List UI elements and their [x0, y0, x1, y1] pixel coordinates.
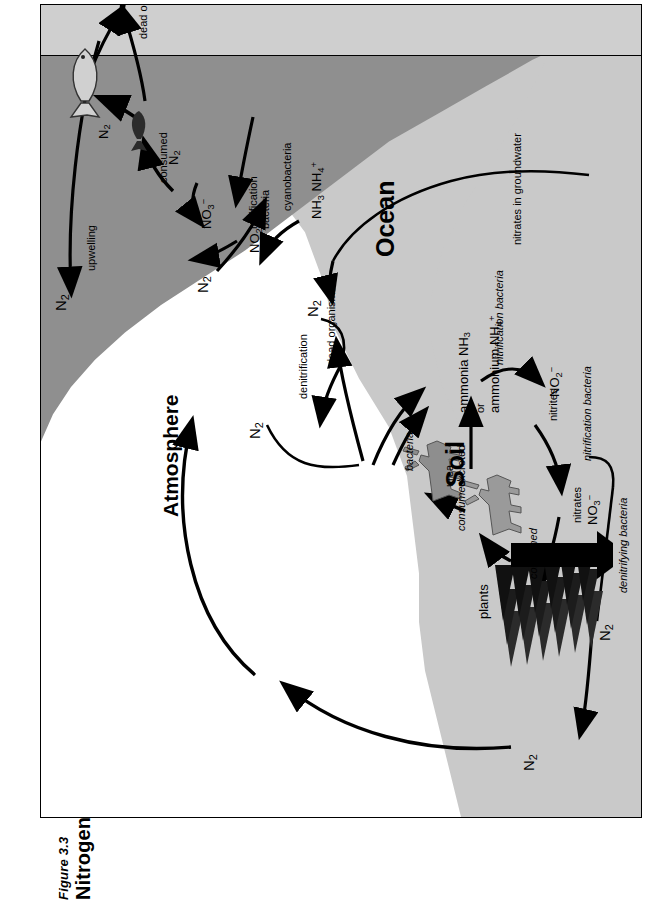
label-cyanobacteria: cyanobacteria [281, 143, 293, 212]
label-ocean: Ocean [371, 181, 399, 257]
label-n2-upwelling: N2 [53, 294, 71, 311]
label-nitrification-bacteria-ocean: nitrificationbacteria [247, 176, 272, 229]
label-no3-soil: NO3− [585, 495, 602, 525]
label-atmosphere: Atmosphere [159, 394, 183, 517]
label-n2-mid: N2 [247, 422, 265, 439]
label-consumed-lower: consumed [527, 528, 539, 579]
label-dead-organisms-ocean: dead organisms [137, 4, 149, 39]
label-consumed-ocean: consumed [157, 132, 169, 183]
label-no2-soil: NO2− [547, 367, 564, 397]
label-nitrification-bacteria-soil-upper: nitrification bacteria [493, 270, 505, 365]
label-n2-left: N2 [521, 754, 539, 771]
label-dead-organisms-soil: dead organisms [325, 287, 337, 365]
nitrogen-cycle-figure: Figure 3.3 Nitrogen Cycle [0, 0, 658, 924]
label-urea-excreted: ureaexcreted [443, 445, 468, 487]
diagram-scene: Atmosphere Ocean Soil N2 N2 N2 N2 N2 N2 … [40, 4, 642, 818]
label-nitrates-in-groundwater: nitrates in groundwater [511, 133, 523, 245]
label-no2-ocean: NO2− [247, 223, 264, 253]
label-n2-denitrification: N2 [305, 300, 323, 317]
tree-cluster [495, 531, 613, 667]
label-no3-ocean: NO3− [199, 199, 216, 229]
label-denitrifying-bacteria: denitrifying bacteria [617, 498, 629, 593]
label-consumed-upper: consumed [455, 480, 467, 531]
figure-number: Figure 3.3 [56, 837, 71, 900]
label-upwelling: upwelling [85, 225, 97, 271]
label-n2-bottom-left: N2 [597, 624, 615, 641]
label-plants: plants [477, 584, 492, 619]
label-nitrates: nitrates [571, 487, 583, 523]
label-bacteria-soil: bacteria [403, 432, 415, 471]
figure-page: Figure 3.3 Nitrogen Cycle [0, 0, 658, 924]
label-nitrification-bacteria-soil-lower: nitrification bacteria [581, 366, 593, 461]
label-n2-ocean-input: N2 [195, 276, 213, 293]
label-n2-ocean-mid: N2 [97, 124, 113, 139]
zooplankton-icon [131, 111, 147, 151]
consumer-animal-lower [463, 475, 521, 535]
label-n2-ocean-deep: N2 [167, 150, 183, 165]
label-denitrification: denitrification [297, 334, 309, 399]
label-nh3-ocean: NH3 NH4+ [309, 162, 326, 219]
